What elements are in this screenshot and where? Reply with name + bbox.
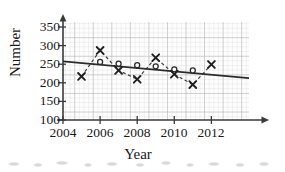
x-tick-2004: 2004 [43, 125, 83, 141]
x-tick-2012: 2012 [191, 125, 231, 141]
x-tick-2006: 2006 [80, 125, 120, 141]
x-tick-2010: 2010 [154, 125, 194, 141]
y-tick-350: 350 [30, 20, 60, 34]
chart-figure: 350 300 250 200 150 100 2004 2006 2008 2… [0, 0, 285, 172]
y-tick-150: 150 [30, 94, 60, 108]
y-axis-title: Number [7, 15, 24, 91]
page-scan-artifact [0, 158, 285, 172]
y-tick-300: 300 [30, 39, 60, 53]
y-tick-250: 250 [30, 57, 60, 71]
x-tick-2008: 2008 [117, 125, 157, 141]
y-axis-tick-labels: 350 300 250 200 150 100 [28, 0, 60, 140]
y-tick-200: 200 [30, 76, 60, 90]
plot-grid [63, 22, 249, 120]
